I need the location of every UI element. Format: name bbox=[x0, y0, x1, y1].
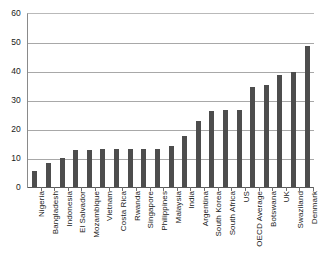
bar-chart: 0102030405060 NigeriaBangladeshIndonesia… bbox=[0, 0, 327, 269]
bar bbox=[60, 158, 65, 188]
x-tick-label: South Korea bbox=[214, 191, 223, 237]
x-tick-label: Botswana bbox=[269, 191, 278, 227]
y-axis: 0102030405060 bbox=[0, 0, 24, 269]
x-tick-label: Indonesia bbox=[65, 191, 74, 227]
x-tick-label: US bbox=[242, 191, 251, 202]
bar bbox=[87, 150, 92, 188]
bar bbox=[196, 121, 201, 188]
y-tick-label: 0 bbox=[16, 183, 21, 192]
bar bbox=[128, 149, 133, 188]
x-tick-label: Singapore bbox=[146, 191, 155, 228]
x-tick-label: UK bbox=[282, 191, 291, 202]
x-tick-label: Costa Rica bbox=[119, 191, 128, 231]
y-tick-label: 40 bbox=[11, 67, 21, 76]
bar bbox=[223, 110, 228, 188]
bar bbox=[114, 149, 119, 188]
y-tick-label: 20 bbox=[11, 125, 21, 134]
bar bbox=[237, 110, 242, 188]
x-tick-label: El Salvador bbox=[78, 191, 87, 233]
bar bbox=[182, 136, 187, 188]
x-tick-label: Vietnam bbox=[105, 191, 114, 221]
y-tick-label: 60 bbox=[11, 9, 21, 18]
x-tick-label: Swaziland bbox=[296, 191, 305, 228]
x-tick-label: Mozambique bbox=[92, 191, 101, 238]
x-tick-label: Nigeria bbox=[37, 191, 46, 217]
bar bbox=[250, 87, 255, 189]
x-tick-label: Argentina bbox=[201, 191, 210, 226]
bar bbox=[100, 149, 105, 188]
x-tick-label: Rwanda bbox=[133, 191, 142, 221]
x-axis: NigeriaBangladeshIndonesiaEl SalvadorMoz… bbox=[27, 191, 313, 269]
x-tick-label: Bangladesh bbox=[51, 191, 60, 234]
bar bbox=[46, 163, 51, 188]
bar bbox=[264, 85, 269, 188]
y-tick-label: 50 bbox=[11, 38, 21, 47]
bars-group bbox=[28, 14, 314, 188]
bar bbox=[32, 171, 37, 188]
bar bbox=[141, 149, 146, 188]
bar bbox=[155, 149, 160, 188]
bar bbox=[209, 111, 214, 188]
x-tick-label: India bbox=[187, 191, 196, 209]
bar bbox=[291, 72, 296, 188]
plot-area bbox=[27, 13, 314, 188]
y-tick-label: 10 bbox=[11, 154, 21, 163]
bar bbox=[73, 150, 78, 188]
x-tick-label: Malaysia bbox=[174, 191, 183, 223]
bar bbox=[169, 146, 174, 188]
x-tick-label: South Africa bbox=[228, 191, 237, 235]
x-tick-label: OECD Average bbox=[255, 191, 264, 247]
bar bbox=[305, 46, 310, 188]
y-tick-label: 30 bbox=[11, 96, 21, 105]
x-tick-label: Philippines bbox=[160, 191, 169, 231]
x-tick-label: Denmark bbox=[310, 191, 319, 224]
bar bbox=[277, 75, 282, 188]
